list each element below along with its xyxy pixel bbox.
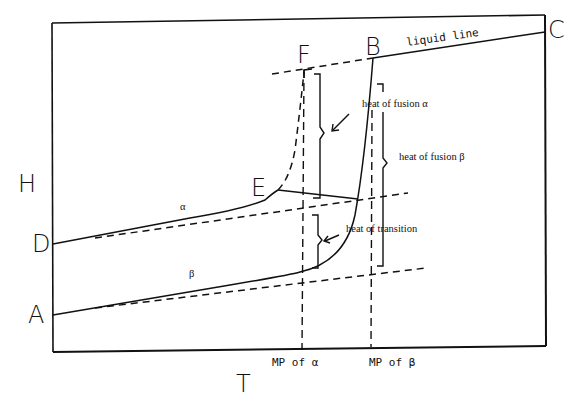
point-label-d: D — [32, 230, 50, 258]
heat-of-fusion-alpha-label: heat of fusion α — [362, 98, 428, 109]
brace-heat-of-fusion-beta — [377, 84, 387, 266]
point-label-f: F — [297, 41, 311, 69]
liquid-line-label: liquid line — [406, 26, 480, 49]
heat-of-fusion-beta-label: heat of fusion β — [399, 151, 465, 162]
point-label-c: C — [548, 16, 565, 44]
point-label-b: B — [365, 33, 381, 61]
enthalpy-diagram: H T A D E F B C liquid line α β heat of … — [0, 0, 582, 406]
alpha-curve — [53, 190, 358, 244]
y-axis-label: H — [18, 170, 36, 198]
mp-alpha-line — [302, 70, 304, 350]
x-axis-label: T — [236, 370, 251, 398]
alpha-metastable-curve — [278, 72, 304, 190]
heat-of-transition-label: heat of transition — [346, 223, 418, 234]
f-corner — [304, 69, 312, 78]
beta-curve — [53, 58, 373, 315]
arrow-icon — [324, 235, 339, 243]
point-label-a: A — [28, 301, 44, 329]
point-label-e: E — [251, 174, 266, 202]
alpha-label: α — [180, 201, 186, 212]
beta-label: β — [189, 268, 194, 279]
mp-alpha-label: MP of α — [272, 356, 319, 369]
beta-extrapolation — [95, 268, 426, 308]
brace-heat-of-transition — [312, 215, 322, 268]
arrow-icon — [332, 114, 349, 131]
brace-heat-of-fusion-alpha — [313, 74, 324, 198]
mp-beta-label: MP of β — [369, 356, 416, 369]
